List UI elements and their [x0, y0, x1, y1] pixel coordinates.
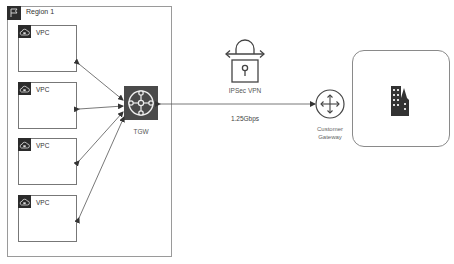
customer-gateway-node[interactable] [315, 89, 345, 119]
vpn-label: IPSec VPN [213, 87, 277, 94]
customer-gateway-label-line2: Gateway [305, 133, 355, 141]
bandwidth-label: 1.25Gbps [213, 115, 277, 122]
building-icon [390, 84, 410, 116]
router-icon [315, 89, 345, 119]
customer-gateway-label-line1: Customer [305, 125, 355, 133]
customer-gateway-label: Customer Gateway [305, 125, 355, 141]
vpn-lock-icon [222, 38, 268, 84]
